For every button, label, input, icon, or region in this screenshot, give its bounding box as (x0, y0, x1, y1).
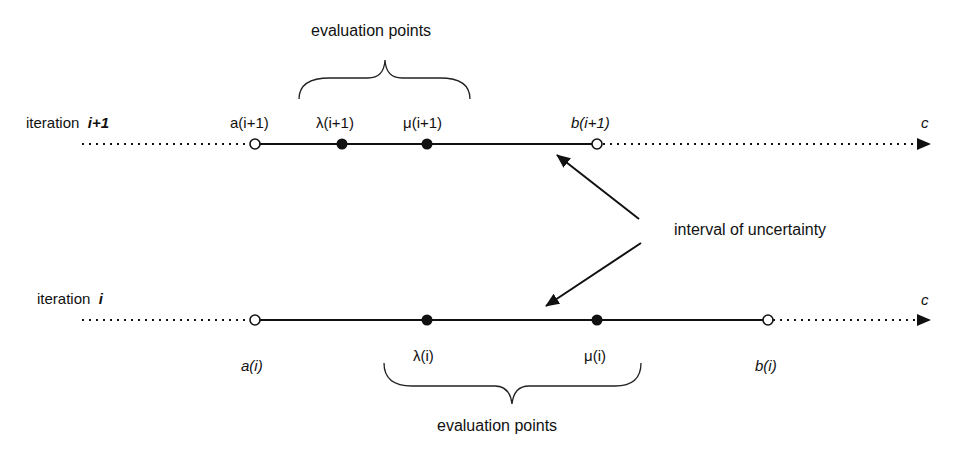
iteration-index: i (99, 290, 103, 307)
arrow-to-top (557, 155, 639, 219)
top-iteration-label: iteration i+1 (26, 115, 109, 130)
arrow-to-bottom (546, 243, 641, 306)
top-label-a: a(i+1) (230, 115, 269, 130)
top-point-mu (422, 139, 433, 150)
top-point-b (592, 139, 602, 149)
bottom-iteration-label: iteration i (37, 291, 103, 306)
bottom-label-lambda: λ(i) (413, 348, 434, 363)
top-number-line (82, 139, 930, 150)
interval-of-uncertainty-label: interval of uncertainty (674, 222, 826, 238)
top-brace (299, 60, 470, 99)
top-label-mu: μ(i+1) (403, 115, 442, 130)
bottom-label-mu: μ(i) (584, 348, 606, 363)
bottom-point-lambda (422, 315, 433, 326)
bottom-brace-label: evaluation points (437, 418, 557, 434)
top-label-lambda: λ(i+1) (316, 115, 354, 130)
top-axis-label-c: c (921, 115, 929, 130)
bottom-point-b (763, 315, 773, 325)
bottom-label-a: a(i) (241, 358, 263, 373)
bottom-label-b: b(i) (755, 358, 777, 373)
top-label-b: b(i+1) (571, 115, 610, 130)
bottom-brace (384, 363, 641, 404)
top-brace-label: evaluation points (311, 23, 431, 39)
iteration-index: i+1 (88, 114, 109, 131)
iteration-word: iteration (26, 114, 79, 131)
bottom-point-a (250, 315, 260, 325)
bottom-axis-label-c: c (921, 292, 929, 307)
bottom-point-mu (592, 315, 603, 326)
iteration-word: iteration (37, 290, 90, 307)
top-point-a (250, 139, 260, 149)
top-point-lambda (337, 139, 348, 150)
bottom-number-line (82, 315, 930, 326)
